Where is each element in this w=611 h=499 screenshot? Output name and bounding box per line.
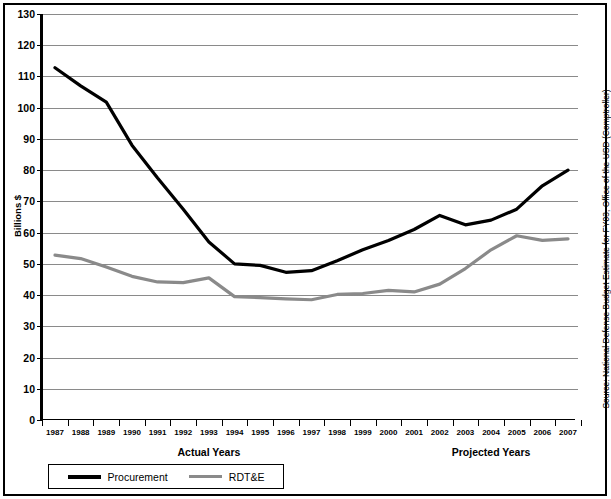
y-tick-mark xyxy=(37,139,43,140)
x-tick-label: 1998 xyxy=(328,428,346,437)
x-tick-label: 1994 xyxy=(226,428,244,437)
gridlines-group xyxy=(43,14,575,419)
y-tick-mark xyxy=(37,295,43,296)
legend-swatch xyxy=(68,475,101,479)
gridline xyxy=(43,389,578,390)
y-tick-label: 0 xyxy=(5,414,35,426)
y-tick-label: 10 xyxy=(5,383,35,395)
x-tick-mark xyxy=(581,420,582,426)
x-tick-label: 2001 xyxy=(405,428,423,437)
chart-legend: ProcurementRDT&E xyxy=(48,464,284,489)
y-tick-label: 60 xyxy=(5,227,35,239)
x-tick-label: 2007 xyxy=(559,428,577,437)
gridline xyxy=(43,326,578,327)
x-tick-mark xyxy=(273,420,274,426)
gridline xyxy=(43,108,578,109)
gridline xyxy=(43,76,578,77)
x-tick-label: 1995 xyxy=(251,428,269,437)
x-tick-mark xyxy=(247,420,248,426)
legend-item-rdt-e: RDT&E xyxy=(189,471,265,483)
x-tick-label: 2005 xyxy=(508,428,526,437)
y-tick-label: 90 xyxy=(5,133,35,145)
x-tick-mark xyxy=(427,420,428,426)
gridline xyxy=(43,295,578,296)
x-tick-mark xyxy=(324,420,325,426)
legend-item-procurement: Procurement xyxy=(68,471,168,483)
y-tick-mark xyxy=(37,170,43,171)
y-tick-mark xyxy=(37,358,43,359)
y-tick-mark xyxy=(37,108,43,109)
x-tick-mark xyxy=(42,420,43,426)
x-tick-mark xyxy=(453,420,454,426)
gridline xyxy=(43,170,578,171)
x-tick-mark xyxy=(350,420,351,426)
x-tick-mark xyxy=(196,420,197,426)
x-tick-label: 1993 xyxy=(200,428,218,437)
y-tick-label: 40 xyxy=(5,289,35,301)
y-tick-label: 50 xyxy=(5,258,35,270)
y-tick-label: 30 xyxy=(5,320,35,332)
y-tick-label: 130 xyxy=(5,8,35,20)
x-tick-label: 1992 xyxy=(174,428,192,437)
x-tick-label: 2000 xyxy=(380,428,398,437)
plot-area: Billions $ 01020304050607080901001101201… xyxy=(40,14,575,420)
y-tick-mark xyxy=(37,76,43,77)
x-tick-label: 2002 xyxy=(431,428,449,437)
x-tick-label: 2003 xyxy=(456,428,474,437)
x-tick-mark xyxy=(504,420,505,426)
x-tick-mark xyxy=(93,420,94,426)
gridline xyxy=(43,358,578,359)
x-tick-label: 1996 xyxy=(277,428,295,437)
x-tick-mark xyxy=(68,420,69,426)
x-tick-mark xyxy=(530,420,531,426)
x-tick-mark xyxy=(376,420,377,426)
y-tick-label: 20 xyxy=(5,352,35,364)
x-tick-mark xyxy=(299,420,300,426)
x-tick-mark xyxy=(170,420,171,426)
y-tick-mark xyxy=(37,14,43,15)
gridline xyxy=(43,264,578,265)
legend-swatch xyxy=(189,475,222,478)
x-tick-label: 1999 xyxy=(354,428,372,437)
gridline xyxy=(43,14,578,15)
y-tick-mark xyxy=(37,389,43,390)
y-tick-label: 70 xyxy=(5,195,35,207)
legend-label: RDT&E xyxy=(229,471,265,483)
y-tick-label: 80 xyxy=(5,164,35,176)
x-tick-mark xyxy=(401,420,402,426)
y-tick-label: 120 xyxy=(5,39,35,51)
x-tick-label: 2004 xyxy=(482,428,500,437)
x-tick-label: 1989 xyxy=(97,428,115,437)
actual-years-label: Actual Years xyxy=(177,446,240,458)
projected-years-label: Projected Years xyxy=(452,446,531,458)
y-tick-mark xyxy=(37,326,43,327)
y-tick-mark xyxy=(37,45,43,46)
y-tick-mark xyxy=(37,264,43,265)
x-tick-mark xyxy=(478,420,479,426)
x-tick-label: 1990 xyxy=(123,428,141,437)
y-tick-mark xyxy=(37,233,43,234)
x-tick-label: 1987 xyxy=(46,428,64,437)
x-tick-label: 1991 xyxy=(149,428,167,437)
x-tick-label: 1988 xyxy=(72,428,90,437)
y-tick-label: 110 xyxy=(5,70,35,82)
source-note: Source: National Defense Budget Estimate… xyxy=(601,89,611,408)
x-tick-mark xyxy=(222,420,223,426)
gridline xyxy=(43,233,578,234)
gridline xyxy=(43,201,578,202)
x-tick-mark xyxy=(145,420,146,426)
legend-label: Procurement xyxy=(108,471,168,483)
x-tick-mark xyxy=(555,420,556,426)
x-tick-mark xyxy=(119,420,120,426)
gridline xyxy=(43,45,578,46)
y-tick-label: 100 xyxy=(5,102,35,114)
y-tick-mark xyxy=(37,201,43,202)
x-tick-label: 1997 xyxy=(303,428,321,437)
x-tick-label: 2006 xyxy=(533,428,551,437)
gridline xyxy=(43,139,578,140)
